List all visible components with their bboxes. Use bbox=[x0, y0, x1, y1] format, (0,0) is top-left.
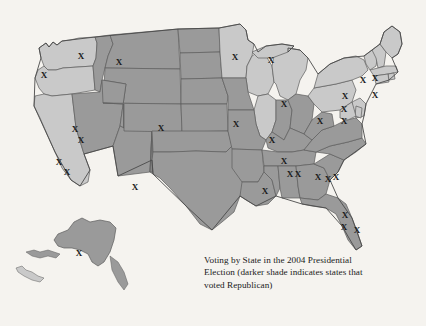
state-nebraska bbox=[181, 78, 228, 104]
tally-mark: X bbox=[341, 104, 348, 114]
state-oklahoma bbox=[152, 131, 232, 152]
tally-mark: X bbox=[325, 174, 332, 184]
state-south-dakota bbox=[180, 52, 222, 79]
state-florida bbox=[300, 194, 362, 250]
tally-mark: X bbox=[372, 90, 379, 100]
tally-mark: X bbox=[232, 52, 239, 62]
state-washington bbox=[39, 37, 97, 70]
tally-mark: X bbox=[262, 186, 269, 196]
map-caption: Voting by State in the 2004 Presidential… bbox=[204, 254, 418, 291]
tally-mark: X bbox=[269, 135, 276, 145]
tally-mark: X bbox=[78, 51, 85, 61]
tally-mark: X bbox=[78, 135, 85, 145]
tally-mark: X bbox=[295, 169, 302, 179]
tally-mark: X bbox=[287, 169, 294, 179]
state-kansas bbox=[181, 104, 228, 132]
tally-mark: X bbox=[56, 157, 63, 167]
tally-mark: X bbox=[116, 57, 123, 67]
caption-line-2: Election (darker shade indicates states … bbox=[204, 266, 418, 278]
tally-mark: X bbox=[342, 91, 349, 101]
tally-mark: X bbox=[72, 124, 79, 134]
map-states bbox=[16, 24, 402, 290]
tally-mark: X bbox=[341, 116, 348, 126]
tally-mark: X bbox=[64, 167, 71, 177]
tally-mark: X bbox=[372, 73, 379, 83]
state-hawaii bbox=[16, 266, 44, 282]
tally-mark: X bbox=[41, 70, 48, 80]
election-map-figure: XXXXXXXXXXXXXXXXXXXXXXXXXXXXXXXX Voting … bbox=[0, 0, 426, 326]
state-alaska bbox=[54, 218, 116, 266]
caption-line-1: Voting by State in the 2004 Presidential bbox=[204, 254, 418, 266]
tally-mark: X bbox=[341, 222, 348, 232]
tally-mark: X bbox=[360, 75, 367, 85]
state-alaska-panhandle bbox=[110, 256, 128, 290]
state-tennessee bbox=[262, 150, 316, 166]
tally-mark: X bbox=[233, 119, 240, 129]
tally-mark: X bbox=[158, 123, 165, 133]
tally-mark: X bbox=[333, 172, 340, 182]
tally-mark: X bbox=[317, 116, 324, 126]
tally-mark: X bbox=[132, 182, 139, 192]
tally-mark: X bbox=[268, 55, 275, 65]
tally-mark: X bbox=[315, 172, 322, 182]
tally-mark: X bbox=[354, 225, 361, 235]
tally-mark: X bbox=[281, 99, 288, 109]
state-rhode-island bbox=[388, 73, 395, 80]
tally-mark: X bbox=[76, 248, 83, 258]
caption-line-3: voted Republican) bbox=[204, 279, 418, 291]
state-alaska-aleutians bbox=[26, 250, 60, 258]
state-north-dakota bbox=[178, 28, 220, 53]
tally-mark: X bbox=[281, 156, 288, 166]
tally-mark: X bbox=[342, 210, 349, 220]
state-arizona bbox=[113, 126, 152, 176]
